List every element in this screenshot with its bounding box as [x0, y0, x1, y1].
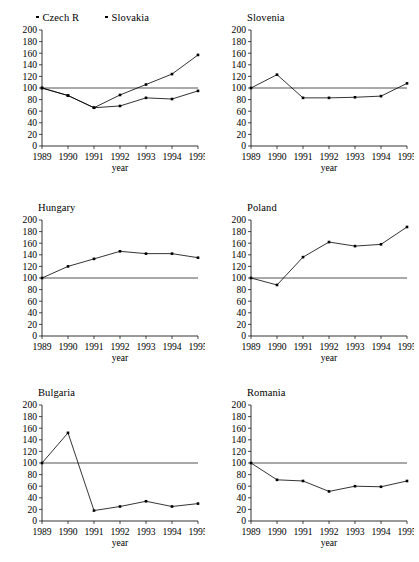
y-axis-tick-label: 140: [23, 434, 38, 445]
y-axis-tick-label: 140: [232, 249, 247, 260]
data-point-marker: [302, 97, 305, 100]
chart-svg: 0204060801001201401601802001989199019911…: [209, 375, 414, 550]
panel-title-poland: Poland: [247, 202, 277, 213]
data-point-marker: [41, 462, 44, 465]
y-axis-tick-label: 80: [236, 469, 246, 480]
y-axis-tick-label: 80: [236, 284, 246, 295]
x-axis-tick-label: 1994: [371, 151, 390, 162]
y-axis-tick-label: 180: [23, 411, 38, 422]
chart-svg: 0204060801001201401601802001989199019911…: [0, 0, 205, 175]
x-axis-tick-label: 1992: [319, 151, 338, 162]
data-point-marker: [145, 97, 148, 100]
y-axis-tick-label: 100: [232, 272, 247, 283]
data-point-marker: [93, 509, 96, 512]
data-line-hungary: [42, 251, 198, 278]
y-axis-tick-label: 40: [27, 492, 37, 503]
x-axis-tick-label: 1992: [110, 526, 129, 537]
x-axis-tick-label: 1993: [136, 151, 155, 162]
y-axis-tick-label: 180: [23, 36, 38, 47]
y-axis-tick-label: 180: [232, 226, 247, 237]
y-axis-tick-label: 140: [23, 249, 38, 260]
x-axis-tick-label: 1989: [241, 526, 260, 537]
data-point-marker: [250, 277, 253, 280]
data-point-marker: [171, 73, 174, 76]
y-axis-tick-label: 100: [232, 457, 247, 468]
y-axis-tick-label: 160: [232, 238, 247, 249]
y-axis-tick-label: 160: [23, 48, 38, 59]
x-axis-tick-label: 1993: [345, 151, 364, 162]
x-axis-tick-label: 1991: [84, 341, 103, 352]
data-point-marker: [197, 502, 200, 505]
y-axis-tick-label: 160: [232, 48, 247, 59]
x-axis-title: year: [321, 162, 338, 173]
legend-item-slovakia: Slovakia: [105, 12, 149, 23]
y-axis-tick-label: 160: [23, 238, 38, 249]
y-axis-tick-label: 20: [236, 319, 246, 330]
data-point-marker: [406, 82, 409, 85]
x-axis-tick-label: 1992: [110, 151, 129, 162]
data-point-marker: [302, 480, 305, 483]
data-point-marker: [354, 245, 357, 248]
panel-hungary: Hungary 02040608010012014016018020019891…: [0, 190, 209, 375]
y-axis-tick-label: 100: [23, 457, 38, 468]
x-axis-tick-label: 1994: [371, 526, 390, 537]
x-axis-tick-label: 1994: [371, 341, 390, 352]
data-point-marker: [119, 505, 122, 508]
y-axis-tick-label: 60: [27, 106, 37, 117]
x-axis-tick-label: 1992: [319, 341, 338, 352]
chart-svg: 0204060801001201401601802001989199019911…: [0, 375, 205, 550]
data-point-marker: [302, 256, 305, 259]
square-marker-icon: [36, 16, 39, 19]
plot-area-romania: 0204060801001201401601802001989199019911…: [209, 375, 419, 550]
x-axis-tick-label: 1995: [397, 151, 414, 162]
x-axis-tick-label: 1990: [267, 151, 286, 162]
y-axis-tick-label: 20: [27, 319, 37, 330]
data-line-bulgaria: [42, 433, 198, 511]
plot-area-czech-slovakia: 0204060801001201401601802001989199019911…: [0, 0, 209, 175]
x-axis-tick-label: 1990: [58, 526, 77, 537]
y-axis-tick-label: 200: [23, 24, 38, 35]
y-axis-tick-label: 80: [236, 94, 246, 105]
data-point-marker: [171, 505, 174, 508]
y-axis-tick-label: 40: [236, 117, 246, 128]
data-line-czech-r: [42, 55, 198, 108]
x-axis-tick-label: 1991: [293, 341, 312, 352]
y-axis-tick-label: 60: [27, 481, 37, 492]
y-axis-tick-label: 80: [27, 469, 37, 480]
legend: Czech RSlovakia: [36, 12, 149, 23]
y-axis-tick-label: 80: [27, 94, 37, 105]
data-point-marker: [276, 479, 279, 482]
x-axis-tick-label: 1995: [188, 151, 205, 162]
x-axis-tick-label: 1994: [162, 526, 181, 537]
y-axis-tick-label: 200: [232, 24, 247, 35]
x-axis-tick-label: 1990: [58, 151, 77, 162]
x-axis-tick-label: 1991: [84, 526, 103, 537]
y-axis-tick-label: 120: [23, 71, 38, 82]
y-axis-tick-label: 80: [27, 284, 37, 295]
data-point-marker: [328, 490, 331, 493]
legend-label-czech: Czech R: [43, 12, 80, 23]
x-axis-tick-label: 1991: [84, 151, 103, 162]
data-line-romania: [251, 463, 407, 491]
data-point-marker: [197, 256, 200, 259]
panel-czech-slovakia: Czech RSlovakia 020406080100120140160180…: [0, 0, 209, 190]
data-point-marker: [276, 284, 279, 287]
x-axis-tick-label: 1993: [136, 526, 155, 537]
y-axis-tick-label: 160: [23, 423, 38, 434]
data-point-marker: [171, 252, 174, 255]
data-point-marker: [328, 241, 331, 244]
data-point-marker: [41, 87, 44, 90]
x-axis-tick-label: 1993: [345, 341, 364, 352]
y-axis-tick-label: 200: [23, 399, 38, 410]
y-axis-tick-label: 60: [27, 296, 37, 307]
data-point-marker: [406, 480, 409, 483]
y-axis-tick-label: 60: [236, 296, 246, 307]
y-axis-tick-label: 200: [23, 214, 38, 225]
data-line-poland: [251, 227, 407, 285]
plot-area-poland: 0204060801001201401601802001989199019911…: [209, 190, 419, 365]
x-axis-title: year: [321, 352, 338, 363]
data-point-marker: [67, 94, 70, 97]
x-axis-tick-label: 1995: [397, 526, 414, 537]
data-point-marker: [197, 90, 200, 93]
y-axis-tick-label: 60: [236, 106, 246, 117]
